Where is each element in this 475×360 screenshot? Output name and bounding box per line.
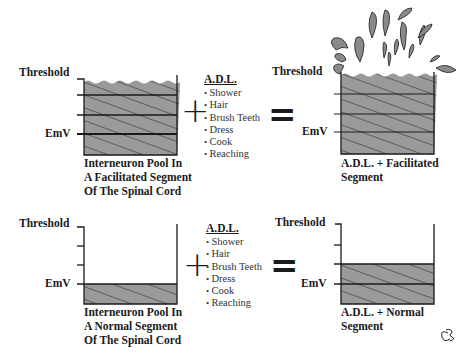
equals-operator: = (268, 99, 297, 129)
overflow-pool-container (334, 72, 437, 154)
threshold-label: Threshold (19, 66, 69, 79)
facilitated-pool-caption: Interneuron Pool In A Facilitated Segmen… (84, 156, 192, 198)
adl-item: Shower (206, 236, 262, 248)
emv-label: EmV (301, 277, 327, 290)
adl-item: Brush Teeth (204, 112, 260, 124)
adl-item: Hair (204, 99, 260, 111)
equals-operator: = (270, 250, 299, 280)
adl-item: Hair (206, 248, 262, 260)
adl-item: Reaching (204, 148, 260, 160)
adl-item: Reaching (206, 297, 262, 309)
normal-pool-caption: Interneuron Pool In A Normal Segment Of … (84, 305, 182, 347)
normal-result-caption: A.D.L. + Normal Segment (341, 305, 424, 333)
adl-list-block: A.D.L. Shower Hair Brush Teeth Dress Coo… (206, 222, 262, 310)
adl-title: A.D.L. (204, 73, 260, 85)
adl-item: Dress (206, 273, 262, 285)
adl-item: Dress (204, 124, 260, 136)
threshold-label: Threshold (275, 216, 325, 229)
adl-item: Cook (204, 136, 260, 148)
adl-list: Shower Hair Brush Teeth Dress Cook Reach… (206, 236, 262, 310)
emv-label: EmV (45, 127, 71, 140)
normal-result-pool-container (334, 224, 434, 304)
normal-pool-container (77, 224, 177, 304)
emv-label: EmV (302, 125, 328, 138)
adl-item: Cook (206, 285, 262, 297)
adl-item: Brush Teeth (206, 261, 262, 273)
facilitated-result-caption: A.D.L. + Facilitated Segment (341, 156, 439, 184)
facilitated-pool-container (77, 75, 180, 155)
overflow-splash-droplets (331, 8, 456, 74)
adl-title: A.D.L. (206, 222, 262, 234)
adl-list: Shower Hair Brush Teeth Dress Cook Reach… (204, 87, 260, 161)
threshold-label: Threshold (272, 65, 322, 78)
adl-list-block: A.D.L. Shower Hair Brush Teeth Dress Coo… (204, 73, 260, 161)
threshold-label: Threshold (19, 217, 69, 230)
adl-item: Shower (204, 87, 260, 99)
signature-mark (442, 329, 454, 341)
emv-label: EmV (45, 277, 71, 290)
